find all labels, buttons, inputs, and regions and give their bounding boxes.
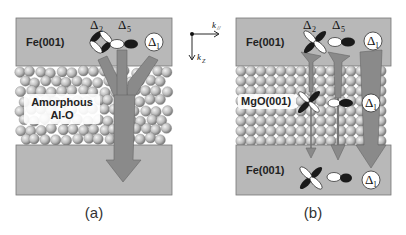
atom bbox=[155, 76, 165, 86]
atom bbox=[102, 95, 112, 105]
caption-b: (b) bbox=[304, 204, 322, 221]
atom bbox=[316, 116, 326, 126]
atom bbox=[266, 126, 276, 136]
atom bbox=[61, 135, 71, 145]
panel-a: Amorphous Al-O Fe(001) Δ 2 Δ 5 Δ bbox=[15, 17, 173, 221]
atom bbox=[316, 126, 326, 136]
atom bbox=[326, 116, 336, 126]
delta5-sub-b: 5 bbox=[341, 25, 345, 34]
barrier-label-a-line1: Amorphous bbox=[31, 96, 93, 108]
atom bbox=[246, 116, 256, 126]
atom bbox=[68, 124, 78, 134]
atom bbox=[141, 123, 151, 133]
atom bbox=[141, 106, 151, 116]
atom bbox=[326, 106, 336, 116]
atom bbox=[236, 126, 246, 136]
delta1-orbital-icon-b-bottom: Δ 1 bbox=[362, 171, 380, 189]
atom bbox=[162, 106, 172, 116]
delta1-sub-b-bottom: 1 bbox=[373, 180, 377, 189]
k-axes: k // k Z bbox=[189, 20, 222, 64]
atom bbox=[51, 76, 61, 86]
atom bbox=[93, 78, 103, 88]
atom bbox=[135, 134, 145, 144]
delta1-sub-b-mid: 1 bbox=[373, 103, 377, 112]
atom bbox=[84, 133, 94, 143]
atom bbox=[296, 116, 306, 126]
tunneling-diagram: Amorphous Al-O Fe(001) Δ 2 Δ 5 Δ bbox=[0, 0, 406, 235]
fe-bottom-layer-a bbox=[16, 145, 172, 195]
fe-bottom-label-b: Fe(001) bbox=[246, 164, 285, 176]
atom bbox=[147, 115, 157, 125]
delta2-symbol-a: Δ bbox=[90, 17, 98, 32]
atom bbox=[88, 66, 98, 76]
fe-top-label-a: Fe(001) bbox=[26, 36, 65, 48]
atom bbox=[15, 86, 25, 96]
atom bbox=[40, 134, 50, 144]
atom bbox=[256, 116, 266, 126]
atom bbox=[256, 126, 266, 136]
atom bbox=[246, 66, 256, 76]
atom bbox=[346, 106, 356, 116]
atom bbox=[36, 125, 46, 135]
atom bbox=[162, 67, 172, 77]
delta2-symbol-b: Δ bbox=[303, 17, 311, 32]
atom bbox=[276, 126, 286, 136]
delta1-sub-b-top: 1 bbox=[375, 41, 379, 50]
atom bbox=[296, 76, 306, 86]
atom bbox=[236, 66, 246, 76]
delta5-symbol-b: Δ bbox=[332, 17, 340, 32]
atom bbox=[145, 133, 155, 143]
atom bbox=[256, 66, 266, 76]
atom bbox=[246, 76, 256, 86]
atom bbox=[134, 97, 144, 107]
atom bbox=[155, 94, 165, 104]
atom bbox=[256, 76, 266, 86]
atom bbox=[276, 66, 286, 76]
atom bbox=[20, 76, 30, 86]
delta2-sub-b: 2 bbox=[312, 25, 316, 34]
atom bbox=[58, 125, 68, 135]
atom bbox=[346, 116, 356, 126]
delta1-sub-a: 1 bbox=[156, 42, 160, 51]
atom bbox=[266, 66, 276, 76]
atom bbox=[286, 116, 296, 126]
delta1-orbital-icon-b-top: Δ 1 bbox=[364, 32, 382, 50]
atom bbox=[29, 134, 39, 144]
atom bbox=[316, 76, 326, 86]
atom bbox=[246, 126, 256, 136]
atom bbox=[346, 76, 356, 86]
atom bbox=[296, 126, 306, 136]
atom bbox=[161, 123, 171, 133]
atom bbox=[155, 135, 165, 145]
atom bbox=[41, 76, 51, 86]
atom bbox=[266, 116, 276, 126]
atom bbox=[276, 76, 286, 86]
atom bbox=[15, 67, 25, 77]
atom bbox=[346, 126, 356, 136]
atom bbox=[145, 94, 155, 104]
delta5-sub-a: 5 bbox=[127, 25, 131, 34]
atom bbox=[236, 76, 246, 86]
delta5-symbol-a: Δ bbox=[118, 17, 126, 32]
atom bbox=[346, 86, 356, 96]
atom bbox=[236, 116, 246, 126]
barrier-label-b: MgO(001) bbox=[241, 95, 291, 107]
delta2-sub-a: 2 bbox=[99, 25, 103, 34]
atom bbox=[326, 126, 336, 136]
atom bbox=[72, 76, 82, 86]
atom bbox=[93, 134, 103, 144]
atom bbox=[46, 123, 56, 133]
atom bbox=[24, 66, 34, 76]
atom bbox=[316, 66, 326, 76]
caption-a: (a) bbox=[85, 204, 103, 221]
kz-sub: Z bbox=[202, 58, 206, 64]
panel-b: Fe(001) Fe(001) Δ 2 Δ 5 bbox=[236, 17, 391, 221]
atom bbox=[276, 116, 286, 126]
atom bbox=[73, 134, 83, 144]
k-parallel-sub: // bbox=[216, 25, 222, 31]
atom bbox=[99, 104, 109, 114]
atom bbox=[50, 135, 60, 145]
delta1-orbital-icon-a: Δ 1 bbox=[145, 33, 163, 51]
delta1-orbital-icon-b-mid: Δ 1 bbox=[362, 94, 380, 112]
atom bbox=[286, 66, 296, 76]
